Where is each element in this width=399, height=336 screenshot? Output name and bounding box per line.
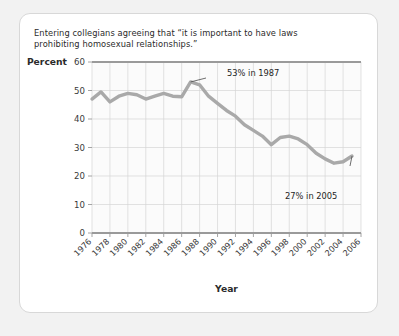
xtick-label-1998: 1998: [269, 236, 291, 258]
ytick-label-20: 20: [74, 171, 85, 181]
xtick-label-1996: 1996: [251, 236, 273, 258]
xtick-label-2000: 2000: [287, 236, 309, 258]
xtick-label-1988: 1988: [179, 236, 201, 258]
xtick-label-2004: 2004: [323, 236, 345, 258]
xtick-label-1992: 1992: [215, 236, 237, 258]
xtick-label-1990: 1990: [197, 236, 219, 258]
ytick-label-30: 30: [74, 143, 85, 153]
xtick-label-1982: 1982: [125, 236, 147, 258]
xtick-label-2002: 2002: [305, 236, 327, 258]
xtick-label-1994: 1994: [233, 236, 255, 258]
line-chart: 0102030405060Percent19761978198019821984…: [20, 14, 379, 314]
xtick-label-1976: 1976: [72, 236, 94, 258]
xtick-label-1986: 1986: [161, 236, 183, 258]
xtick-label-1984: 1984: [143, 236, 165, 258]
y-axis-label: Percent: [27, 56, 68, 67]
ytick-label-50: 50: [74, 86, 85, 96]
ytick-label-10: 10: [74, 200, 85, 210]
ytick-label-60: 60: [74, 57, 85, 67]
annotation-label-1: 27% in 2005: [285, 191, 337, 201]
ytick-label-40: 40: [74, 114, 85, 124]
xtick-label-2006: 2006: [341, 236, 363, 258]
x-axis-label: Year: [214, 283, 238, 294]
xtick-label-1980: 1980: [107, 236, 129, 258]
annotation-label-0: 53% in 1987: [227, 68, 279, 78]
xtick-label-1978: 1978: [90, 236, 112, 258]
ytick-label-0: 0: [80, 228, 85, 238]
chart-card: Entering collegians agreeing that “it is…: [19, 13, 378, 313]
page-background: Entering collegians agreeing that “it is…: [0, 0, 399, 336]
